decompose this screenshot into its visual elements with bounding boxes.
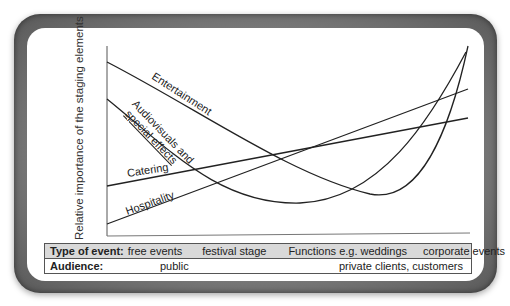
audience-header: Audience:: [45, 259, 130, 273]
x-axis: [107, 233, 470, 236]
table-row-audience: Audience: public private clients, custom…: [45, 259, 471, 273]
type-functions: Functions e.g. weddings: [288, 244, 407, 258]
type-corporate-events: corporate events: [423, 244, 505, 258]
audience-public: public: [160, 259, 189, 273]
type-free-events: free events: [128, 244, 182, 258]
audience-private: private clients, customers: [339, 259, 471, 273]
y-axis-label: Relative importance of the staging eleme…: [73, 40, 87, 240]
table-row-type-of-event: Type of event: free events festival stag…: [45, 244, 471, 259]
event-table: Type of event: free events festival stag…: [44, 243, 472, 274]
type-festival-stage: festival stage: [202, 244, 266, 258]
type-of-event-header: Type of event:: [45, 244, 124, 258]
